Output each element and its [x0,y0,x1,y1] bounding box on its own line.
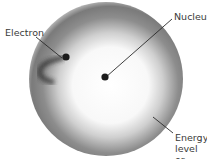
atom-diagram: Electron Nucleus Energy level or shell [0,0,207,159]
nucleus-label: Nucleus [174,11,207,22]
shell-label: Energy level or shell [175,132,207,159]
nucleus-dot [101,73,108,80]
electron-dot [62,53,69,60]
electron-label: Electron [5,27,44,38]
